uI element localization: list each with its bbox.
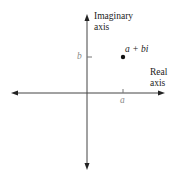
axes-graphic [0, 0, 176, 177]
real-axis-label-line1: Real [150, 68, 167, 77]
complex-point-dot [121, 55, 125, 59]
imaginary-axis-down-arrow-icon [85, 163, 90, 170]
imaginary-axis-up-arrow-icon [85, 14, 90, 21]
real-tick-label: a [120, 96, 125, 105]
real-axis-label-line2: axis [150, 79, 165, 88]
imaginary-axis-label-line2: axis [94, 23, 109, 32]
imaginary-tick-label: b [77, 52, 82, 61]
complex-plane-diagram: Imaginary axis Real axis b a a + bi [0, 0, 176, 177]
complex-point-label: a + bi [125, 45, 148, 54]
real-axis-right-arrow-icon [158, 91, 165, 96]
real-axis-left-arrow-icon [11, 91, 18, 96]
imaginary-axis-label-line1: Imaginary [94, 12, 133, 21]
